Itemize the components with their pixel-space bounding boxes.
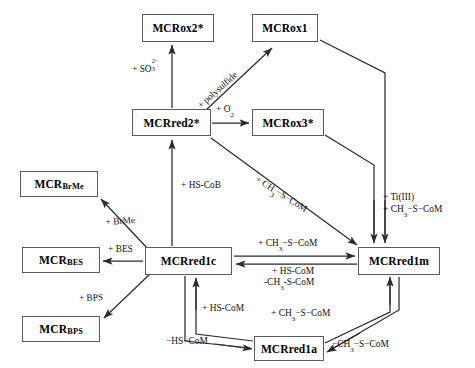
ch3-sub-b: 3 [404, 211, 408, 219]
node-mcrbps-label-sub: BPS [67, 327, 83, 336]
label-ti-ch3scom: + CH3−S−CoM [383, 204, 442, 217]
node-mcrox1-label: MCRox1 [262, 22, 307, 34]
label-bes: + BES [108, 244, 133, 255]
node-mcrox3[interactable]: MCRox3* [252, 109, 324, 136]
ch3-sub-f: 3 [350, 346, 354, 354]
label-reverse-hscom: + HS-CoM [272, 266, 314, 277]
ch3-sub-c: 3 [279, 245, 283, 253]
label-hscom-plus: + HS-CoM [202, 303, 244, 314]
node-mcrbrme-label-main: MCR [34, 178, 62, 190]
node-mcrred1c-label: MCRred1c [161, 255, 217, 267]
node-mcrox2[interactable]: MCRox2* [142, 14, 214, 42]
label-ch3scom-minus-red1a: −CH3−S−CoM [332, 339, 389, 352]
edge-red1c-to-red1a-arrow [215, 344, 252, 349]
node-mcrbes[interactable]: MCRBES [22, 247, 100, 273]
label-titanium: + Ti(III) [383, 192, 414, 203]
node-mcrbes-label-sub: BES [67, 258, 83, 267]
label-reverse-ch3scom: -CH3-S-CoM [264, 277, 314, 290]
node-mcrred2[interactable]: MCRred2* [132, 109, 211, 136]
node-mcrred1a[interactable]: MCRred1a [254, 336, 324, 361]
edge-red2-to-ox1 [206, 48, 272, 110]
ch3-sub-a: 3 [269, 191, 276, 200]
node-mcrred1a-label: MCRred1a [261, 343, 317, 355]
label-hscob: + HS-CoB [181, 180, 221, 191]
sulfite-charge: 2−3 [152, 62, 161, 72]
node-mcrred2-label: MCRred2* [143, 117, 199, 129]
label-hscom-minus: −HS−CoM [166, 336, 208, 347]
label-forward-red1c-red1m: + CH3−S−CoM [258, 238, 317, 251]
node-mcrred1m-label: MCRred1m [369, 255, 429, 267]
node-mcrbrme-label-sub: BrMe [62, 182, 83, 191]
node-mcrred1c[interactable]: MCRred1c [145, 247, 232, 275]
label-sulfite: + SO2−3 [132, 62, 161, 75]
node-mcrbes-label-main: MCR [39, 254, 67, 266]
edge-ox3-to-rail [325, 135, 374, 235]
node-mcrbps[interactable]: MCRBPS [22, 316, 100, 342]
node-mcrox1[interactable]: MCRox1 [252, 14, 318, 42]
node-mcrbrme[interactable]: MCRBrMe [20, 171, 98, 197]
node-mcrbps-label-main: MCR [39, 323, 67, 335]
label-dioxygen: + O2 [216, 104, 234, 117]
ch3-sub-e: 3 [292, 315, 296, 323]
o2-subscript: 2 [230, 111, 234, 119]
mcr-reaction-diagram: MCRox2* MCRox1 MCRred2* MCRox3* MCRBrMe … [0, 0, 475, 368]
node-mcrox3-label: MCRox3* [262, 117, 313, 129]
edge-red1c-to-bps [104, 274, 150, 318]
node-mcrox2-label: MCRox2* [152, 22, 203, 34]
ch3-sub-d: 3 [280, 284, 284, 292]
node-mcrred1m[interactable]: MCRred1m [358, 247, 440, 275]
label-brme: + BrMe [105, 215, 135, 228]
label-bps: + BPS [79, 292, 104, 304]
label-ch3scom-plus-red1a: + CH3−S−CoM [271, 308, 330, 321]
